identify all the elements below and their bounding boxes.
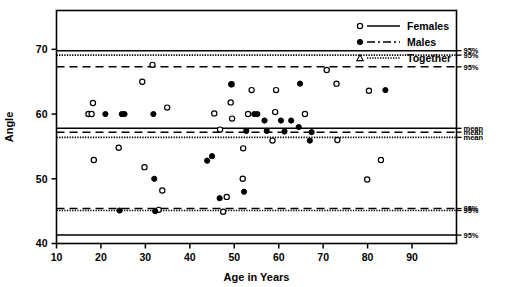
data-point-females	[150, 62, 155, 67]
data-point-females	[273, 88, 278, 93]
data-point-females	[229, 116, 234, 121]
x-tick-label-5: 60	[273, 251, 285, 263]
data-point-females	[90, 100, 95, 105]
data-point-males	[153, 209, 158, 214]
data-point-males	[229, 82, 234, 87]
x-tick-label-0: 10	[51, 251, 63, 263]
data-point-females	[366, 88, 371, 93]
reference-line-label-2: 95%	[464, 63, 479, 72]
data-point-males	[297, 81, 302, 86]
data-point-males	[151, 111, 156, 116]
data-point-males	[309, 130, 314, 135]
data-point-females	[140, 79, 145, 84]
data-point-females	[302, 111, 307, 116]
data-point-males	[152, 176, 157, 181]
data-point-females	[142, 165, 147, 170]
data-point-females	[224, 194, 229, 199]
data-point-females	[249, 88, 254, 93]
x-axis-title: Age in Years	[224, 271, 290, 283]
data-point-males	[205, 158, 210, 163]
reference-line-label-7: 95%	[464, 206, 479, 215]
data-point-males	[117, 208, 122, 213]
data-point-females	[116, 145, 121, 150]
reference-line-label-1: 95%	[464, 51, 479, 60]
data-point-females	[212, 111, 217, 116]
data-point-males	[103, 111, 108, 116]
data-point-females	[335, 137, 340, 142]
y-tick-label-2: 60	[36, 108, 48, 120]
reference-line-label-8: 95%	[464, 231, 479, 240]
data-point-females	[273, 110, 278, 115]
data-point-males	[262, 118, 267, 123]
legend-marker-filled-circle-icon	[357, 39, 362, 44]
data-point-females	[241, 146, 246, 151]
data-point-males	[282, 129, 287, 134]
y-tick-label-3: 70	[36, 43, 48, 55]
data-point-females	[89, 111, 94, 116]
data-point-males	[264, 128, 269, 133]
x-tick-label-3: 40	[184, 251, 196, 263]
data-point-males	[209, 154, 214, 159]
data-point-males	[296, 124, 301, 129]
x-tick-label-2: 30	[140, 251, 152, 263]
x-tick-label-6: 70	[317, 251, 329, 263]
data-point-males	[289, 118, 294, 123]
data-point-females	[240, 176, 245, 181]
data-point-females	[160, 188, 165, 193]
data-point-females	[324, 67, 329, 72]
scatter-plot-svg: 95%95%95%meanmeanmean95%95%95%1020304050…	[0, 0, 519, 287]
data-point-females	[91, 157, 96, 162]
data-point-females	[228, 100, 233, 105]
x-tick-label-1: 20	[95, 251, 107, 263]
y-tick-label-1: 50	[36, 173, 48, 185]
data-point-females	[365, 177, 370, 182]
data-point-males	[217, 196, 222, 201]
data-point-females	[165, 105, 170, 110]
legend-label-females: Females	[407, 20, 449, 32]
data-point-females	[217, 127, 222, 132]
data-point-males	[241, 189, 246, 194]
data-point-females	[221, 209, 226, 214]
data-point-females	[334, 81, 339, 86]
data-point-females	[245, 111, 250, 116]
data-point-males	[278, 118, 283, 123]
data-point-females	[270, 138, 275, 143]
x-tick-label-4: 50	[228, 251, 240, 263]
y-axis-title: Angle	[3, 112, 15, 143]
reference-line-label-5: mean	[464, 133, 484, 142]
x-tick-label-7: 80	[362, 251, 374, 263]
chart-figure: 95%95%95%meanmeanmean95%95%95%1020304050…	[0, 0, 519, 287]
data-point-males	[122, 111, 127, 116]
x-tick-label-8: 90	[406, 251, 418, 263]
legend-label-together: Together	[407, 52, 451, 64]
legend-label-males: Males	[407, 36, 436, 48]
data-point-males	[307, 138, 312, 143]
data-point-males	[255, 111, 260, 116]
data-point-males	[383, 88, 388, 93]
data-point-females	[378, 157, 383, 162]
data-point-males	[244, 128, 249, 133]
y-tick-label-0: 40	[36, 237, 48, 249]
legend-marker-open-circle-icon	[357, 23, 362, 28]
